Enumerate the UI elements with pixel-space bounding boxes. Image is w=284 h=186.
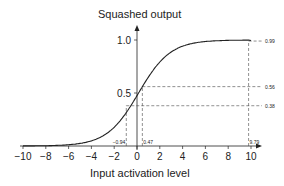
x-tick-label: −4 [86, 151, 98, 162]
x-tick-label: 6 [203, 151, 209, 162]
input-annotation: 9.79 [250, 139, 260, 145]
input-annotation: 0.47 [143, 139, 153, 145]
input-annotation: −0.94 [113, 139, 126, 145]
y-tick-label: 0.5 [117, 88, 131, 99]
output-annotation: 0.56 [265, 84, 275, 90]
x-tick-label: 0 [134, 151, 140, 162]
output-annotation: 0.38 [265, 103, 275, 109]
x-tick-label: −2 [108, 151, 120, 162]
x-tick-label: 10 [245, 151, 257, 162]
x-tick-label: 4 [180, 151, 186, 162]
output-annotation: 0.99 [265, 38, 275, 44]
x-axis-label: Input activation level [90, 167, 190, 179]
x-tick-label: −10 [15, 151, 32, 162]
x-tick-label: −8 [40, 151, 52, 162]
sigmoid-chart: Squashed output Input activation level −… [0, 0, 284, 186]
y-tick-label: 1.0 [117, 35, 131, 46]
y-axis-label: Squashed output [98, 8, 181, 20]
x-tick-label: 8 [225, 151, 231, 162]
x-tick-label: 2 [157, 151, 163, 162]
x-tick-label: −6 [63, 151, 75, 162]
